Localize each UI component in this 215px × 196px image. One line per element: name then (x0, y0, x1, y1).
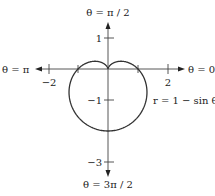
down-arrow-icon (106, 170, 111, 177)
label-theta-pi: θ = π (2, 64, 30, 75)
label-theta-3pi-over-2: θ = 3π / 2 (83, 179, 133, 190)
label-theta-pi-over-2: θ = π / 2 (86, 7, 129, 18)
tick-label-x-2: 2 (165, 77, 171, 88)
left-arrow-icon (35, 67, 42, 72)
tick-label-y-neg1: −1 (87, 95, 102, 106)
tick-label-y-neg3: −3 (87, 157, 102, 168)
up-arrow-icon (106, 22, 111, 29)
label-theta-0: θ = 0 (188, 64, 215, 75)
equation-label: r = 1 − sin θ (153, 95, 215, 106)
right-arrow-icon (178, 67, 185, 72)
tick-label-x-neg2: −2 (42, 77, 57, 88)
tick-label-y-1: 1 (96, 33, 102, 44)
polar-graph: θ = π / 2 θ = 0 θ = π θ = 3π / 2 −2 2 1 … (0, 0, 215, 196)
